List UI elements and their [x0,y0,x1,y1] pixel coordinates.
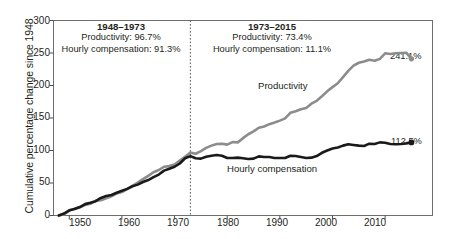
y-tick-marks [50,21,54,216]
plot-frame [54,21,433,216]
line-hourly-compensation [59,142,412,215]
productivity-compensation-chart: Cumulative percentage change since 1948 … [0,0,450,239]
endpoint-dot-productivity [409,56,414,61]
plot-area [0,0,450,239]
x-tick-marks [69,216,385,220]
endpoint-dot-hourly-compensation [409,139,415,145]
line-productivity [59,53,412,216]
